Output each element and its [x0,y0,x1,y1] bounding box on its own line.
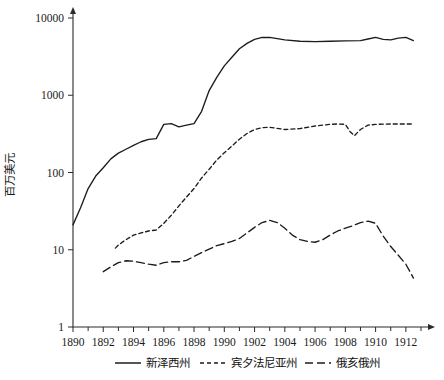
x-axis-ticks: 1890189218941896189819901902190419061908… [62,327,422,348]
series-line-3 [103,220,413,278]
x-tick-label: 1908 [334,336,357,348]
legend-label-3: 俄亥俄州 [336,356,380,369]
x-tick-label: 1906 [304,336,327,348]
x-tick-label: 1894 [122,336,145,348]
y-tick-label: 10000 [35,12,64,24]
chart-figure: 100001000100101 189018921894189618981990… [0,0,444,380]
y-tick-label: 10 [53,244,65,256]
legend-label-2: 宾夕法尼亚州 [231,356,297,369]
axis-lines [73,12,429,327]
x-tick-label: 1912 [394,336,417,348]
x-tick-label: 1898 [183,336,206,348]
x-tick-label: 1890 [62,336,85,348]
x-tick-label: 1904 [273,336,296,348]
x-axis-arrow-icon [428,324,435,330]
x-tick-label: 1896 [152,336,175,348]
chart-legend: 新泽西州宾夕法尼亚州俄亥俄州 [115,356,380,369]
line-chart-canvas: 100001000100101 189018921894189618981990… [0,0,444,380]
data-series [73,37,413,278]
y-axis-arrow-icon [70,7,76,14]
y-axis-label: 百万美元 [3,152,16,197]
x-tick-label: 1902 [243,336,266,348]
y-tick-label: 1000 [41,89,64,101]
x-tick-label: 1892 [92,336,115,348]
x-tick-label: 1990 [213,336,236,348]
y-tick-label: 1 [58,321,64,333]
series-line-1 [73,37,413,224]
axes [70,7,435,330]
y-axis-ticks: 100001000100101 [35,12,73,333]
y-axis-label-text: 百万美元 [3,152,16,197]
y-tick-label: 100 [47,167,65,179]
x-tick-label: 1910 [364,336,387,348]
series-line-2 [115,124,413,248]
legend-label-1: 新泽西州 [146,356,190,369]
